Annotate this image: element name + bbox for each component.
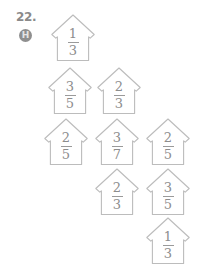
house-shape[interactable]: 13	[50, 13, 96, 63]
hint-badge-icon[interactable]: H	[19, 29, 32, 42]
problem-number: 22.	[16, 11, 36, 23]
house-shape[interactable]: 37	[94, 117, 140, 167]
fraction-denominator: 7	[113, 148, 121, 162]
fraction-numerator: 2	[113, 181, 121, 195]
fraction-value: 35	[47, 78, 93, 112]
fraction-numerator: 2	[115, 80, 123, 94]
fraction-value: 13	[145, 228, 191, 262]
fraction-numerator: 3	[66, 80, 74, 94]
house-shape[interactable]: 23	[94, 167, 140, 217]
fraction-value: 25	[43, 129, 89, 163]
worksheet-page: 22. H 133523253725233513	[0, 0, 201, 270]
fraction-value: 37	[94, 129, 140, 163]
fraction-denominator: 3	[69, 44, 77, 58]
fraction-numerator: 3	[164, 181, 172, 195]
fraction-value: 35	[145, 179, 191, 213]
fraction-denominator: 5	[164, 198, 172, 212]
fraction-denominator: 5	[62, 148, 70, 162]
fraction-value: 23	[94, 179, 140, 213]
fraction-numerator: 2	[164, 131, 172, 145]
house-shape[interactable]: 25	[145, 117, 191, 167]
fraction-numerator: 2	[62, 131, 70, 145]
fraction-value: 25	[145, 129, 191, 163]
fraction-numerator: 1	[69, 27, 77, 41]
fraction-denominator: 3	[164, 247, 172, 261]
house-shape[interactable]: 35	[145, 167, 191, 217]
fraction-numerator: 1	[164, 230, 172, 244]
house-shape[interactable]: 13	[145, 216, 191, 266]
hint-badge-label: H	[22, 31, 30, 40]
fraction-denominator: 5	[164, 148, 172, 162]
fraction-denominator: 3	[113, 198, 121, 212]
house-shape[interactable]: 35	[47, 66, 93, 116]
fraction-value: 13	[50, 25, 96, 59]
fraction-value: 23	[96, 78, 142, 112]
fraction-numerator: 3	[113, 131, 121, 145]
fraction-denominator: 5	[66, 97, 74, 111]
fraction-denominator: 3	[115, 97, 123, 111]
house-shape[interactable]: 23	[96, 66, 142, 116]
house-shape[interactable]: 25	[43, 117, 89, 167]
